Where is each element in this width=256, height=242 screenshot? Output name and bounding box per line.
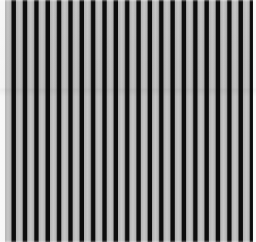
stripe-pattern xyxy=(5,0,253,242)
striped-texture-image xyxy=(0,0,256,242)
